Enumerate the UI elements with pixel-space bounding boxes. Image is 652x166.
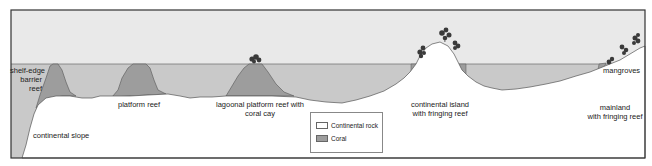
label-line: barrier: [10, 75, 42, 84]
continental-rock-swatch: [316, 122, 328, 129]
label-line: shelf-edge: [10, 66, 42, 75]
label-continental-slope: continental slope: [33, 131, 89, 140]
coral-swatch: [316, 135, 328, 142]
label-mainland: mainland with fringing reef: [580, 103, 650, 121]
legend-item-continental-rock: Continental rock: [316, 122, 378, 129]
label-line: mainland: [580, 103, 650, 112]
label-line: lagoonal platform reef with: [210, 100, 310, 109]
label-shelf-edge-barrier-reef: shelf-edge barrier reef: [10, 66, 42, 93]
label-line: coral cay: [210, 109, 310, 118]
label-line: with fringing reef: [580, 112, 650, 121]
label-line: reef: [10, 84, 42, 93]
label-continental-island: continental island with fringing reef: [400, 100, 480, 118]
legend-label: Coral: [331, 135, 347, 142]
label-line: with fringing reef: [400, 109, 480, 118]
label-line: continental island: [400, 100, 480, 109]
legend: Continental rock Coral: [310, 112, 383, 153]
label-mangroves: mangroves: [603, 66, 640, 75]
legend-label: Continental rock: [331, 122, 378, 129]
label-lagoonal-platform-reef: lagoonal platform reef with coral cay: [210, 100, 310, 118]
label-platform-reef: platform reef: [118, 100, 160, 109]
legend-item-coral: Coral: [316, 135, 347, 142]
